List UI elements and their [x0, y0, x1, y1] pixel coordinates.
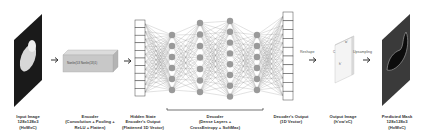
decoder-bracket	[167, 108, 263, 110]
label-line: ReLU + Flatten)	[65, 125, 115, 130]
arrow-icon	[363, 58, 370, 63]
arrow-icon	[51, 58, 58, 63]
reshape-label: Reshape	[300, 50, 314, 54]
input-image-label: Input Image 128x128x3 (HxWxC)	[16, 114, 40, 130]
input-image	[14, 14, 42, 107]
label-line: CrossEntropy + SoftMax)	[190, 125, 240, 130]
predicted-mask	[382, 14, 410, 106]
output-image-label: Output Image (h'xw'xC)	[330, 114, 357, 125]
dim-w-label: w'	[345, 40, 348, 44]
upsampling-label: Upsampling	[353, 50, 372, 54]
arrow-icon	[124, 59, 131, 64]
hidden-state-vector	[135, 20, 145, 96]
label-line: (1D Vector)	[274, 119, 309, 124]
hidden-state-label: Hidden State Encoder's Output (Flattened…	[122, 114, 164, 130]
label-line: (HxWxC)	[382, 125, 413, 130]
arrow-icon	[309, 58, 316, 63]
decoder-output-vector	[283, 12, 293, 100]
predicted-mask-label: Predicted Mask 128x128x3 (HxWxC)	[382, 114, 413, 130]
dim-c-label: C	[333, 50, 335, 54]
decoder-output-label: Decoder's Output (1D Vector)	[274, 114, 309, 125]
dim-h-label: h'	[339, 62, 341, 66]
label-line: (h'xw'xC)	[330, 119, 357, 124]
label-line: (Flattened 1D Vector)	[122, 125, 164, 130]
decoder-label: Decoder (Dense Layers + CrossEntropy + S…	[190, 114, 240, 130]
encoder-label: Encoder (Convolution + Pooling + ReLU + …	[65, 114, 115, 130]
label-line: (HxWxC)	[16, 125, 40, 130]
encoder-box-text: Nonlin(53 Nonlin(13)1)	[67, 61, 97, 65]
